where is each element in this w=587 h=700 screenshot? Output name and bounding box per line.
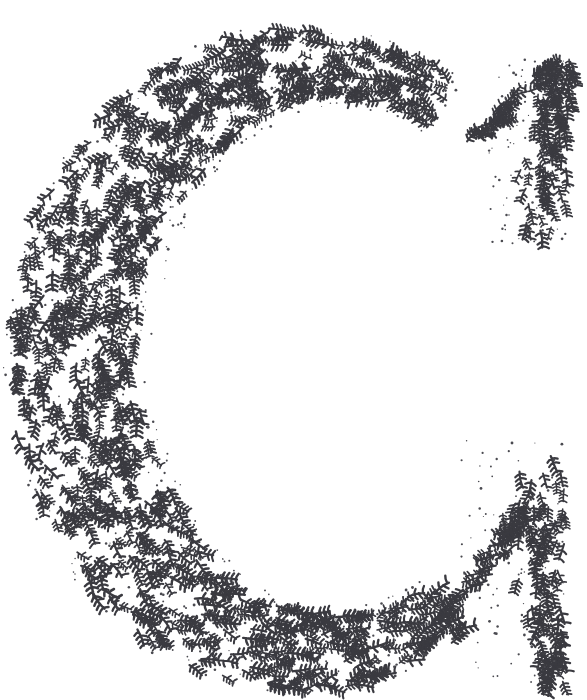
ink-speck — [300, 631, 302, 633]
ink-speck — [390, 64, 391, 65]
ink-speck — [30, 295, 31, 296]
leaf-sprig — [509, 579, 522, 595]
ink-speck — [247, 644, 249, 646]
ink-speck — [63, 474, 65, 476]
ink-speck — [353, 46, 356, 49]
ink-speck — [505, 214, 507, 216]
ink-speck — [251, 655, 254, 658]
ink-speck — [126, 257, 128, 259]
ink-speck — [289, 30, 291, 32]
ink-speck — [508, 146, 510, 148]
ink-speck — [169, 220, 171, 222]
ink-speck — [141, 409, 143, 411]
ink-speck — [89, 163, 91, 165]
ink-speck — [444, 104, 446, 106]
ink-speck — [376, 613, 378, 615]
leaf-sprig — [371, 637, 388, 652]
ink-speck — [130, 515, 131, 516]
ink-speck — [156, 163, 158, 165]
ink-speck — [423, 88, 425, 90]
ink-speck — [53, 401, 55, 403]
ink-speck — [563, 60, 564, 61]
ink-speck — [176, 146, 178, 148]
ink-speck — [219, 160, 221, 162]
ink-speck — [191, 114, 193, 116]
leaf-sprig — [60, 423, 77, 444]
ink-speck — [210, 137, 213, 140]
ink-speck — [180, 172, 182, 174]
ink-speck — [240, 674, 241, 675]
ink-speck — [537, 168, 540, 171]
ink-speck — [87, 505, 89, 507]
ink-speck — [116, 385, 119, 388]
leaf-sprig — [556, 471, 567, 486]
ink-speck — [65, 167, 67, 169]
ink-speck — [257, 677, 259, 679]
ink-speck — [153, 441, 155, 443]
ink-speck — [145, 446, 147, 448]
ink-speck — [228, 682, 230, 684]
leaf-sprig — [103, 588, 122, 605]
ink-speck — [127, 89, 129, 91]
ink-speck — [302, 634, 304, 636]
ink-speck — [410, 109, 413, 112]
ink-speck — [397, 77, 400, 80]
ink-speck — [132, 318, 135, 321]
ink-speck — [236, 614, 239, 617]
ink-speck — [182, 503, 184, 505]
ink-speck — [320, 75, 321, 76]
ink-speck — [233, 570, 235, 572]
ink-speck — [330, 93, 332, 95]
ink-speck — [329, 52, 331, 54]
ink-speck — [558, 78, 561, 81]
ink-speck — [561, 237, 564, 240]
ink-speck — [360, 102, 362, 104]
ink-speck — [174, 564, 176, 566]
ink-speck — [557, 167, 560, 170]
ink-speck — [491, 475, 493, 477]
ink-speck — [130, 131, 133, 134]
ink-speck — [87, 414, 89, 416]
leaf-sprig — [229, 116, 246, 127]
ink-speck — [261, 106, 263, 108]
ink-speck — [553, 193, 555, 195]
leaf-sprig — [536, 231, 549, 249]
ink-speck — [198, 160, 200, 162]
ink-speck — [294, 31, 297, 34]
ink-speck — [310, 680, 313, 683]
ink-speck — [201, 97, 204, 100]
leaf-sprig — [81, 358, 89, 372]
ink-speck — [95, 115, 97, 117]
ink-speck — [534, 675, 536, 677]
leaf-sprig — [70, 364, 82, 382]
ink-speck — [226, 120, 228, 122]
ink-speck — [59, 209, 61, 211]
ink-speck — [508, 65, 510, 67]
ink-speck — [163, 524, 165, 526]
ink-speck — [478, 481, 480, 483]
leaf-sprig — [31, 205, 44, 217]
ink-speck — [89, 547, 91, 549]
ink-speck — [138, 532, 140, 534]
ink-speck — [507, 139, 509, 141]
ink-speck — [90, 529, 93, 532]
ink-speck — [142, 306, 144, 308]
ink-speck — [513, 143, 514, 144]
leaf-sprig — [114, 346, 126, 365]
leaf-sprig — [386, 644, 400, 653]
ink-speck — [218, 145, 221, 148]
ink-speck — [518, 653, 520, 655]
ink-speck — [282, 642, 284, 644]
ink-speck — [341, 80, 342, 81]
ink-speck — [550, 158, 553, 161]
ink-speck — [92, 332, 93, 333]
ink-speck — [498, 77, 499, 78]
ink-speck — [162, 88, 163, 89]
ink-speck — [31, 473, 33, 475]
ink-speck — [39, 462, 42, 465]
ink-speck — [417, 62, 419, 64]
ink-speck — [109, 543, 110, 544]
leaf-sprig — [139, 82, 152, 96]
ink-speck — [74, 579, 76, 581]
leaf-sprig — [49, 357, 60, 373]
